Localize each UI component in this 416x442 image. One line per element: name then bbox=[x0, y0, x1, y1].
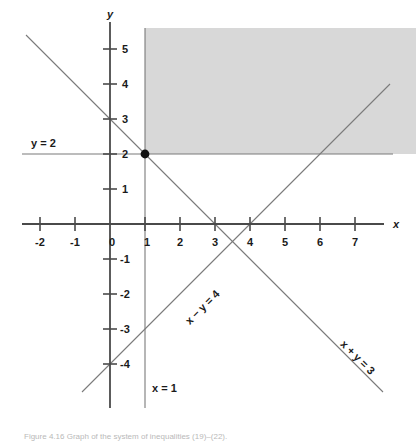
x-tick-label-4: 4 bbox=[247, 236, 254, 248]
label-x-equals-1: x = 1 bbox=[152, 382, 177, 394]
x-tick-label-2: 2 bbox=[177, 236, 183, 248]
x-tick-label-5: 5 bbox=[282, 236, 288, 248]
x-tick-label--1: -1 bbox=[70, 236, 80, 248]
coordinate-graph: -2 -1 0 1 2 3 4 5 6 7 5 4 3 2 1 -1 -2 -3… bbox=[0, 0, 416, 442]
x-tick-label-7: 7 bbox=[352, 236, 358, 248]
figure-root: -2 -1 0 1 2 3 4 5 6 7 5 4 3 2 1 -1 -2 -3… bbox=[0, 0, 416, 442]
x-tick-label--2: -2 bbox=[35, 236, 45, 248]
y-tick-label--2: -2 bbox=[120, 288, 130, 300]
x-tick-label-3: 3 bbox=[212, 236, 218, 248]
figure-caption: Figure 4.16 Graph of the system of inequ… bbox=[24, 432, 227, 441]
vertex-point-1-2 bbox=[141, 150, 150, 159]
x-tick-label-0: 0 bbox=[109, 236, 115, 248]
y-axis-label: y bbox=[106, 8, 114, 20]
x-axis-label: x bbox=[392, 218, 400, 230]
x-tick-label-1: 1 bbox=[144, 236, 150, 248]
y-tick-label-2: 2 bbox=[122, 148, 128, 160]
y-tick-label-3: 3 bbox=[122, 113, 128, 125]
y-tick-label--3: -3 bbox=[120, 323, 130, 335]
x-tick-label-6: 6 bbox=[317, 236, 323, 248]
y-tick-label--1: -1 bbox=[120, 253, 130, 265]
shaded-feasible-region bbox=[145, 28, 416, 154]
label-y-equals-2: y = 2 bbox=[31, 137, 56, 149]
y-tick-label-5: 5 bbox=[122, 43, 128, 55]
y-tick-label-1: 1 bbox=[122, 183, 128, 195]
y-tick-label--4: -4 bbox=[120, 358, 131, 370]
y-tick-label-4: 4 bbox=[122, 78, 129, 90]
